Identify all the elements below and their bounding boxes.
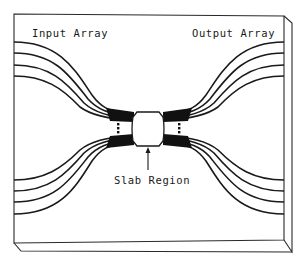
slab-region (132, 112, 164, 146)
output-array-label: Output Array (192, 27, 275, 39)
star-coupler-diagram (0, 0, 300, 262)
ellipsis-right (178, 123, 180, 133)
ellipsis-left (117, 123, 119, 133)
input-array-label: Input Array (32, 27, 108, 39)
slab-region-label: Slab Region (114, 174, 190, 186)
